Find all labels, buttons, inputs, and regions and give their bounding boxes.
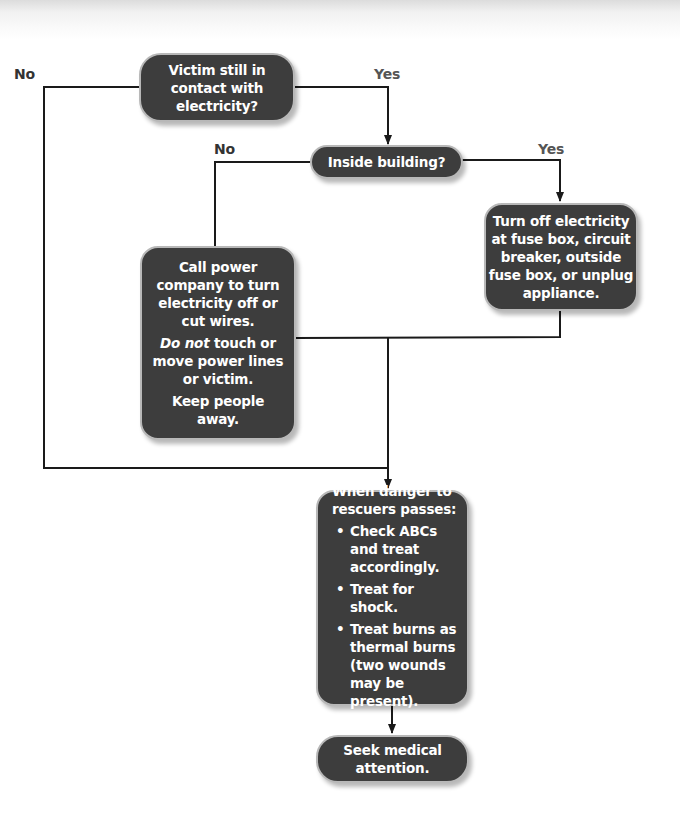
node-text-line: Keep people	[172, 392, 264, 410]
action-call-power-company: Call power company to turn electricity o…	[140, 246, 296, 440]
node-text-line: appliance.	[523, 284, 600, 302]
node-text-line: fuse box, or unplug	[489, 266, 633, 284]
bullet-item: Check ABCs and treat accordingly.	[332, 522, 459, 576]
node-text-line: away.	[197, 410, 239, 428]
node-text-line: Turn off electricity	[493, 212, 630, 230]
node-text-line: rescuers passes:	[332, 500, 456, 518]
decision-victim-contact: Victim still in contact with electricity…	[139, 53, 295, 122]
node-text-line: Do not touch or	[160, 334, 276, 352]
edge-building-yes	[462, 160, 560, 201]
treatment-bullet-list: Check ABCs and treat accordingly. Treat …	[332, 522, 459, 714]
node-text-line: move power lines	[153, 352, 284, 370]
edge-turnoff-merge	[295, 310, 560, 338]
action-turn-off-electricity: Turn off electricity at fuse box, circui…	[484, 203, 638, 311]
node-text-line: cut wires.	[182, 312, 255, 330]
node-text-line: electricity?	[176, 97, 258, 115]
node-text-line: Call power	[179, 258, 257, 276]
action-when-danger-passes: When danger to rescuers passes: Check AB…	[316, 490, 469, 706]
edge-label-victim-no: No	[14, 66, 35, 82]
node-text-line: or victim.	[183, 370, 253, 388]
node-text-span: touch or	[209, 335, 276, 351]
edge-label-building-yes: Yes	[538, 141, 564, 157]
bullet-item: Treat burns as thermal burns (two wounds…	[332, 620, 459, 710]
edge-victim-yes	[295, 87, 388, 144]
node-text: Inside building?	[328, 153, 446, 171]
node-text-line: Victim still in	[169, 61, 266, 79]
node-text-line: at fuse box, circuit	[491, 230, 630, 248]
node-text-line: Seek medical	[343, 741, 442, 759]
node-text-line: company to turn	[157, 276, 280, 294]
node-text-line: attention.	[356, 759, 430, 777]
flowchart-connectors	[0, 0, 680, 840]
node-text-line: When danger to	[332, 482, 451, 500]
node-text-line: breaker, outside	[501, 248, 621, 266]
edge-label-victim-yes: Yes	[374, 66, 400, 82]
decision-inside-building: Inside building?	[310, 145, 463, 179]
emphasis-do-not: Do not	[160, 335, 209, 351]
terminal-seek-medical-attention: Seek medical attention.	[316, 735, 469, 783]
edge-building-no	[215, 162, 310, 246]
node-text-line: contact with	[171, 79, 263, 97]
edge-label-building-no: No	[214, 141, 235, 157]
node-text-line: electricity off or	[158, 294, 277, 312]
bullet-item: Treat for shock.	[332, 580, 459, 616]
